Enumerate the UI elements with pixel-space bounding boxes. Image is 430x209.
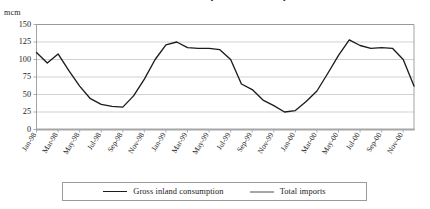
legend-item-total-imports: Total imports [250, 187, 326, 196]
chart-legend: Gross inland consumption Total imports [62, 182, 367, 201]
x-tick-label: Jul-98 [85, 131, 103, 152]
series-layer [37, 40, 415, 130]
x-tick-label: Mar-98 [40, 131, 60, 155]
plot-area: 0255075100125150 Jan-98Mar-98May-98Jul-9… [0, 0, 430, 180]
y-tick-label: 150 [19, 20, 31, 29]
y-axis: 0255075100125150 [19, 20, 37, 134]
legend-swatch-imports-icon [250, 191, 274, 193]
y-tick-label: 50 [23, 90, 31, 99]
y-tick-label: 125 [19, 37, 31, 46]
x-tick-label: Nov-98 [126, 131, 146, 156]
x-tick-label: Sep-99 [235, 131, 254, 154]
x-tick-label: Jan-98 [20, 131, 38, 153]
legend-label-consumption: Gross inland consumption [133, 187, 223, 196]
x-tick-label: May-99 [190, 131, 210, 156]
legend-item-gross-inland-consumption: Gross inland consumption [103, 187, 223, 196]
x-axis [37, 25, 415, 133]
gridlines [37, 25, 415, 130]
x-tick-label: May-00 [320, 131, 340, 156]
series-line-gross-inland-consumption [37, 40, 415, 112]
x-tick-label: Mar-99 [170, 131, 190, 155]
x-tick-label: Jan-00 [279, 131, 297, 153]
x-tick-label: Jan-99 [149, 131, 167, 153]
x-tick-label: May-98 [61, 131, 81, 156]
x-tick-label: Mar-00 [299, 131, 319, 155]
x-tick-label: Nov-99 [256, 131, 276, 156]
x-tick-label: Jul-00 [344, 131, 362, 152]
chart-container: Gross inland consumption and total impor… [0, 0, 430, 209]
x-tick-label: Sep-00 [364, 131, 383, 154]
y-tick-label: 25 [23, 107, 31, 116]
x-tick-labels: Jan-98Mar-98May-98Jul-98Sep-98Nov-98Jan-… [20, 131, 405, 156]
x-tick-label: Nov-00 [385, 131, 405, 156]
x-tick-label: Sep-98 [105, 131, 124, 154]
x-tick-label: Jul-99 [215, 131, 233, 152]
y-tick-label: 75 [23, 72, 31, 81]
legend-swatch-consumption-icon [103, 191, 127, 192]
y-tick-label: 100 [19, 55, 31, 64]
legend-label-imports: Total imports [280, 187, 326, 196]
